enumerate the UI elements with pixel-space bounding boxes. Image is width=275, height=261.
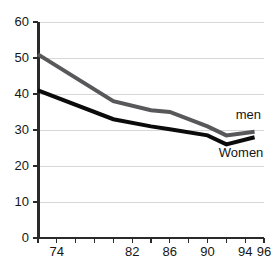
y-axis-tick-label: 20 (15, 158, 29, 173)
series-label-women: Women (219, 145, 264, 160)
y-axis-tick-label: 30 (15, 122, 29, 137)
x-axis-tick-label: 82 (125, 244, 139, 259)
y-axis-tick-label: 60 (15, 14, 29, 29)
x-axis-tick-label: 86 (163, 244, 177, 259)
y-axis-tick-label: 10 (15, 194, 29, 209)
x-axis-tick-label: 74 (50, 244, 64, 259)
series-label-men: men (236, 107, 261, 122)
y-axis-tick-label: 0 (22, 230, 29, 245)
chart-canvas: 0102030405060 748286909496 menWomen (0, 0, 275, 261)
y-axis-tick-label: 40 (15, 86, 29, 101)
x-axis-tick-label: 90 (200, 244, 214, 259)
x-axis-tick-label: 96 (257, 244, 271, 259)
line-chart: 0102030405060 748286909496 menWomen (0, 0, 275, 261)
y-axis-tick-label: 50 (15, 50, 29, 65)
x-axis-tick-label: 94 (238, 244, 252, 259)
